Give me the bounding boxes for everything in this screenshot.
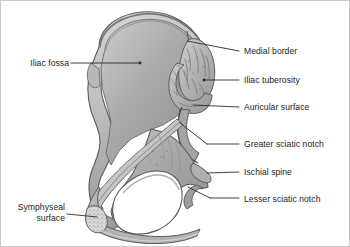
label-iliac-tuberosity-text: Iliac tuberosity (244, 75, 300, 85)
label-iliac-fossa: Iliac fossa (13, 58, 69, 69)
bone-body (86, 12, 215, 244)
label-lesser-sciatic-notch-text: Lesser sciatic notch (244, 194, 320, 204)
leader-ischial-spine (207, 172, 239, 173)
label-lesser-sciatic-notch: Lesser sciatic notch (244, 194, 320, 205)
label-auricular-surface-text: Auricular surface (244, 102, 309, 112)
leader-dot-iliac-fossa (139, 62, 142, 65)
label-auricular-surface: Auricular surface (244, 102, 309, 113)
label-iliac-tuberosity: Iliac tuberosity (244, 75, 300, 86)
label-medial-border-text: Medial border (244, 46, 297, 56)
obturator-foramen (113, 171, 183, 234)
lesser-sciatic-notch (184, 185, 203, 209)
label-symphyseal-surface: Symphyseal surface (3, 202, 65, 223)
label-medial-border: Medial border (244, 46, 297, 57)
anatomy-figure: Iliac fossa Symphyseal surface Medial bo… (0, 0, 350, 247)
symphyseal-surface (86, 206, 108, 233)
label-iliac-fossa-text: Iliac fossa (30, 58, 69, 68)
label-greater-sciatic-notch: Greater sciatic notch (244, 139, 324, 150)
label-symphyseal-surface-line2: surface (3, 213, 65, 224)
label-ischial-spine-text: Ischial spine (244, 167, 292, 177)
label-symphyseal-surface-line1: Symphyseal (3, 202, 65, 213)
label-greater-sciatic-notch-text: Greater sciatic notch (244, 139, 324, 149)
label-ischial-spine: Ischial spine (244, 167, 292, 178)
